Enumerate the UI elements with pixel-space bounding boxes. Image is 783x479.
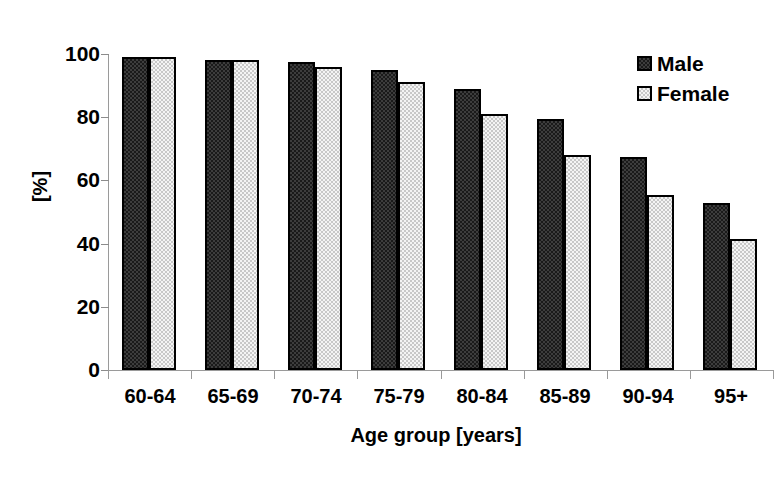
legend-swatch-female-icon: [637, 86, 652, 101]
chart-legend: Male Female: [637, 48, 729, 108]
bar-male-80-84: [454, 89, 481, 370]
y-axis-line: [108, 54, 109, 370]
x-axis-title: Age group [years]: [100, 424, 772, 447]
x-axis-tick-mark: [357, 370, 358, 379]
y-axis-tick-mark: [101, 54, 109, 55]
x-axis-tick-mark: [191, 370, 192, 379]
bar-female-90-94: [647, 195, 674, 370]
legend-swatch-male-icon: [637, 56, 652, 71]
y-axis-tick-mark: [101, 117, 109, 118]
bar-male-60-64: [122, 57, 149, 370]
x-axis-category-label: 70-74: [271, 385, 361, 408]
x-axis-category-label: 85-89: [520, 385, 610, 408]
x-axis-line: [101, 370, 773, 371]
legend-item-female: Female: [637, 78, 729, 108]
y-axis-tick-label: 100: [40, 43, 100, 64]
x-axis-tick-mark: [274, 370, 275, 379]
bar-female-60-64: [149, 57, 176, 370]
x-axis-tick-mark: [607, 370, 608, 379]
bar-chart-figure: [%] 020406080100 60-6465-6970-7475-7980-…: [0, 0, 783, 479]
bar-male-65-69: [205, 60, 232, 370]
x-axis-tick-mark: [524, 370, 525, 379]
bar-male-90-94: [620, 157, 647, 370]
x-axis-category-label: 60-64: [105, 385, 195, 408]
y-axis-tick-mark: [101, 307, 109, 308]
x-axis-tick-mark: [773, 370, 774, 379]
legend-label-female: Female: [657, 83, 729, 104]
x-axis-tick-mark: [441, 370, 442, 379]
bar-female-75-79: [398, 82, 425, 370]
x-axis-category-label: 80-84: [437, 385, 527, 408]
y-axis-tick-label: 60: [40, 169, 100, 190]
bar-female-65-69: [232, 60, 259, 370]
legend-label-male: Male: [657, 53, 704, 74]
y-axis-tick-label: 80: [40, 106, 100, 127]
y-axis-tick-mark: [101, 244, 109, 245]
x-axis-category-label: 75-79: [354, 385, 444, 408]
y-axis-tick-label: 0: [40, 359, 100, 380]
bar-male-70-74: [288, 62, 315, 370]
bar-female-85-89: [564, 155, 591, 370]
legend-item-male: Male: [637, 48, 729, 78]
bar-female-70-74: [315, 67, 342, 370]
x-axis-category-label: 65-69: [188, 385, 278, 408]
y-axis-tick-label: 20: [40, 296, 100, 317]
y-axis-tick-mark: [101, 180, 109, 181]
y-axis-tick-label: 40: [40, 233, 100, 254]
x-axis-category-label: 90-94: [603, 385, 693, 408]
x-axis-tick-mark: [108, 370, 109, 379]
bar-male-95+: [703, 203, 730, 370]
bar-female-80-84: [481, 114, 508, 370]
bar-female-95+: [730, 239, 757, 370]
bar-male-75-79: [371, 70, 398, 370]
x-axis-category-label: 95+: [686, 385, 776, 408]
bar-male-85-89: [537, 119, 564, 370]
x-axis-tick-mark: [690, 370, 691, 379]
